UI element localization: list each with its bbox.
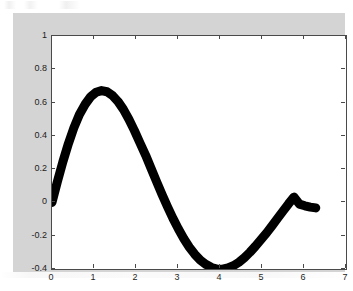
series-damped-sine-line [52, 91, 316, 269]
x-tick-top-7 [345, 35, 346, 39]
y-tick-label-0.2: 0.2 [15, 164, 47, 173]
y-tick-0.8 [51, 68, 55, 69]
x-tick-top-1 [93, 35, 94, 39]
y-tick-label-1: 1 [15, 31, 47, 40]
y-tick-label-0.6: 0.6 [15, 97, 47, 106]
y-tick-label--0.2: -0.2 [15, 230, 47, 239]
y-tick--0.2 [51, 235, 55, 236]
x-tick-5 [261, 264, 262, 268]
x-tick-top-6 [303, 35, 304, 39]
x-tick-2 [135, 264, 136, 268]
y-tick-0.4 [51, 135, 55, 136]
y-tick--0.4 [51, 268, 55, 269]
y-tick-0.2 [51, 168, 55, 169]
x-tick-7 [345, 264, 346, 268]
chart-curve-svg [52, 36, 346, 269]
y-tick-right-0.6 [341, 102, 345, 103]
x-tick-6 [303, 264, 304, 268]
matlab-figure-region: 01234567-0.4-0.200.20.40.60.81 [13, 13, 345, 272]
y-tick-right-0.4 [341, 135, 345, 136]
page-canvas: 01234567-0.4-0.200.20.40.60.81 [0, 0, 353, 291]
y-tick-1 [51, 35, 55, 36]
x-tick-3 [177, 264, 178, 268]
y-tick-right-0.8 [341, 68, 345, 69]
y-tick-right-0 [341, 201, 345, 202]
x-tick-4 [219, 264, 220, 268]
y-tick-label-0.8: 0.8 [15, 64, 47, 73]
x-tick-top-2 [135, 35, 136, 39]
y-tick-right-1 [341, 35, 345, 36]
y-tick-right--0.2 [341, 235, 345, 236]
y-tick-0 [51, 201, 55, 202]
x-tick-top-5 [261, 35, 262, 39]
y-tick-0.6 [51, 102, 55, 103]
y-tick-right--0.4 [341, 268, 345, 269]
plot-axes-box [51, 35, 347, 270]
x-tick-1 [93, 264, 94, 268]
scan-artifact-top [4, 1, 124, 9]
y-tick-label-0.4: 0.4 [15, 130, 47, 139]
y-tick-right-0.2 [341, 168, 345, 169]
y-tick-label-0: 0 [15, 197, 47, 206]
x-tick-top-3 [177, 35, 178, 39]
scan-artifact-bottom [0, 272, 353, 278]
x-tick-top-4 [219, 35, 220, 39]
